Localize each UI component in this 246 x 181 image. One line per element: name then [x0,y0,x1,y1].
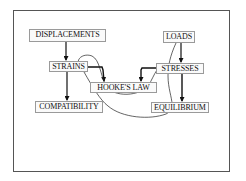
diagram-canvas: DISPLACEMENTS LOADS STRAINS STRESSES HOO… [0,0,246,181]
node-displacements: DISPLACEMENTS [29,29,106,42]
node-hookes-law: HOOKE'S LAW [90,82,157,93]
node-stresses: STRESSES [156,63,204,74]
node-strains: STRAINS [49,61,88,72]
node-equilibrium: EQUILIBRIUM [151,102,209,113]
node-loads: LOADS [163,31,195,43]
node-compatibility: COMPATIBILITY [35,101,103,113]
